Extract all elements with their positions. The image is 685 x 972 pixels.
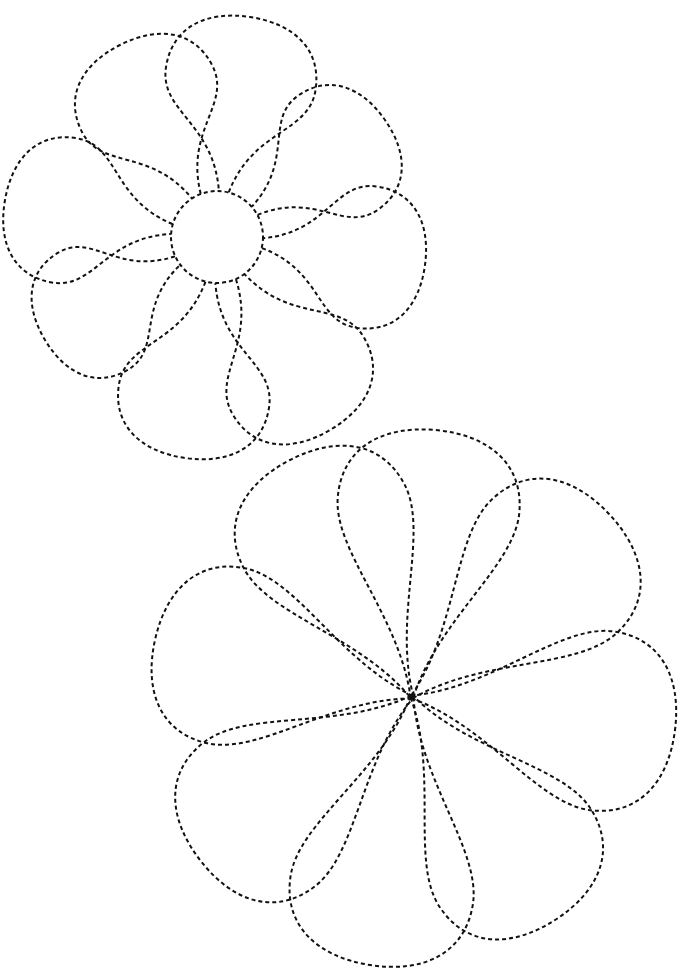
- petal-outline: [75, 34, 217, 198]
- petal-outline: [290, 697, 474, 967]
- flower-with-center-point: [152, 429, 677, 966]
- flower-center-dot: [410, 695, 415, 700]
- flower-with-center-circle: [3, 16, 426, 460]
- petal-outline: [152, 567, 413, 745]
- petal-outline: [226, 274, 373, 444]
- petal-outline: [252, 85, 402, 217]
- petal-outline: [32, 247, 181, 378]
- worksheet-canvas: [0, 0, 685, 972]
- flower-center-circle: [171, 191, 263, 283]
- petal-outline: [411, 479, 641, 699]
- petal-outline: [235, 446, 414, 698]
- petal-outline: [411, 696, 603, 939]
- petal-outline: [412, 631, 676, 811]
- petal-outline: [165, 16, 316, 193]
